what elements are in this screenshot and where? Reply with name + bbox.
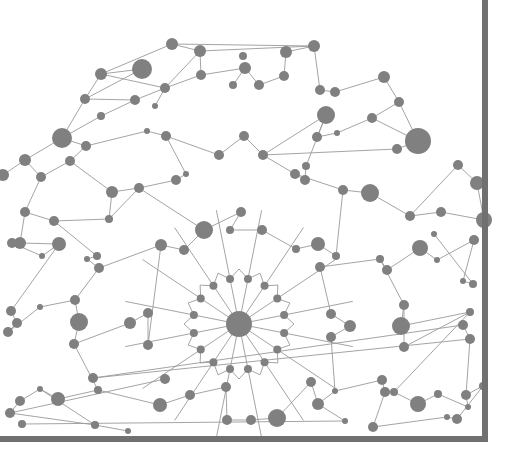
graph-node xyxy=(130,95,140,105)
graph-node xyxy=(20,207,30,217)
graph-node xyxy=(466,308,474,316)
graph-node xyxy=(236,207,246,217)
edge xyxy=(201,68,245,75)
graph-node xyxy=(93,252,101,260)
graph-node xyxy=(392,317,410,335)
graph-node xyxy=(143,340,153,350)
graph-node xyxy=(84,256,90,262)
graph-node xyxy=(290,169,300,179)
node-layer xyxy=(0,38,492,434)
edge xyxy=(25,177,41,212)
graph-node xyxy=(338,185,348,195)
graph-node xyxy=(222,415,232,425)
edge xyxy=(337,118,372,133)
edge xyxy=(200,46,314,51)
graph-node xyxy=(0,169,9,181)
frame-bottom-border xyxy=(0,436,488,442)
edge xyxy=(54,219,109,221)
graph-node xyxy=(161,131,171,141)
graph-node xyxy=(344,320,356,332)
graph-node xyxy=(257,225,267,235)
graph-node xyxy=(452,414,462,424)
graph-node xyxy=(312,132,322,142)
ring-node xyxy=(244,365,252,373)
graph-node xyxy=(124,317,136,329)
graph-node xyxy=(380,387,390,397)
ring-node xyxy=(190,311,198,319)
edge xyxy=(335,380,382,391)
graph-node xyxy=(52,128,72,148)
edge xyxy=(190,387,226,395)
graph-node xyxy=(80,94,90,104)
graph-node xyxy=(399,300,409,310)
graph-node xyxy=(431,231,437,237)
graph-node xyxy=(229,81,237,89)
graph-node xyxy=(390,388,398,396)
graph-node xyxy=(279,71,289,81)
ring-node xyxy=(197,346,205,354)
edge xyxy=(410,165,458,216)
graph-node xyxy=(465,334,475,344)
graph-node xyxy=(221,382,231,392)
graph-node xyxy=(183,171,189,177)
graph-node xyxy=(214,150,224,160)
graph-node xyxy=(94,386,102,394)
graph-node xyxy=(160,83,170,93)
ring-node xyxy=(244,275,252,283)
graph-node xyxy=(125,428,131,434)
graph-node xyxy=(51,392,65,406)
graph-node xyxy=(5,408,15,418)
edge xyxy=(263,155,295,174)
ring-node xyxy=(280,311,288,319)
edge xyxy=(101,100,135,116)
graph-node xyxy=(37,386,43,392)
graph-node xyxy=(70,313,88,331)
edge xyxy=(40,389,95,425)
graph-node xyxy=(18,420,26,428)
edge xyxy=(437,240,474,260)
graph-node xyxy=(317,106,335,124)
graph-node xyxy=(300,175,310,185)
graph-node xyxy=(106,186,118,198)
edge xyxy=(457,386,483,419)
graph-node xyxy=(155,239,167,251)
graph-node xyxy=(143,308,153,318)
graph-node xyxy=(326,309,336,319)
graph-node xyxy=(394,97,404,107)
graph-node xyxy=(444,414,450,420)
graph-node xyxy=(461,390,471,400)
ring-node xyxy=(190,329,198,337)
edge xyxy=(320,259,380,267)
graph-node xyxy=(399,342,409,352)
graph-node xyxy=(39,253,45,259)
graph-node xyxy=(308,40,320,52)
ring-node xyxy=(273,346,281,354)
graph-node xyxy=(153,398,167,412)
ring-node xyxy=(226,275,234,283)
graph-node xyxy=(460,278,466,284)
edge xyxy=(86,131,147,146)
graph-node xyxy=(254,80,264,90)
graph-node xyxy=(12,318,22,328)
graph-node xyxy=(49,216,59,226)
edge xyxy=(434,234,473,284)
ring-node xyxy=(197,294,205,302)
graph-node xyxy=(312,398,324,410)
graph-node xyxy=(465,404,471,410)
graph-node xyxy=(152,103,158,109)
ring-node xyxy=(261,358,269,366)
edge xyxy=(70,161,112,192)
graph-node xyxy=(105,215,113,223)
ring-node xyxy=(280,329,288,337)
edge xyxy=(148,245,161,345)
edge xyxy=(165,51,200,88)
graph-node xyxy=(97,112,105,120)
graph-node xyxy=(315,85,325,95)
edge xyxy=(99,245,161,268)
graph-node xyxy=(246,415,256,425)
graph-node xyxy=(382,265,392,275)
graph-node xyxy=(226,226,234,234)
ring-node xyxy=(273,294,281,302)
graph-node xyxy=(405,128,431,154)
graph-node xyxy=(326,332,336,342)
